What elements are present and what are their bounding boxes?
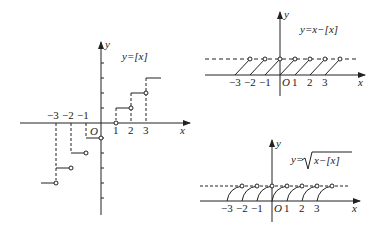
sqrt-formula-prefix: y=	[290, 153, 303, 165]
tick-2: 2	[128, 124, 134, 136]
tick: −1	[259, 76, 271, 88]
y-axis-label: y	[104, 38, 110, 50]
origin-label: O	[90, 125, 98, 137]
sqrt-formula-radicand: x−[x]	[313, 154, 340, 166]
floor-function-graph	[20, 42, 190, 215]
tick-neg3: −3	[47, 109, 59, 121]
y-axis-label: y	[275, 137, 281, 149]
tick-neg1: −1	[77, 109, 89, 121]
tick: 1	[284, 202, 290, 214]
diagram-canvas: y=[x] y x O 1 2 3 −3 −2 −1 y=x−[x] y x O…	[0, 0, 380, 234]
tick-1: 1	[113, 124, 119, 136]
tick: −3	[221, 202, 233, 214]
floor-formula: y=[x]	[121, 50, 148, 62]
tick: 2	[299, 202, 305, 214]
y-axis-label: y	[283, 8, 289, 20]
tick: 2	[307, 76, 313, 88]
tick: −2	[236, 202, 248, 214]
x-axis-label: x	[357, 76, 363, 88]
tick-3: 3	[143, 124, 149, 136]
tick: 3	[314, 202, 320, 214]
tick: −2	[244, 76, 256, 88]
x-axis-label: x	[351, 202, 357, 214]
origin-label: O	[282, 76, 290, 88]
origin-label: O	[274, 202, 282, 214]
x-axis-label: x	[179, 124, 185, 136]
tick: 1	[292, 76, 298, 88]
tick: −1	[251, 202, 263, 214]
tick-neg2: −2	[62, 109, 74, 121]
fractional-formula: y=x−[x]	[299, 23, 338, 35]
tick: 3	[322, 76, 328, 88]
tick: −3	[229, 76, 241, 88]
